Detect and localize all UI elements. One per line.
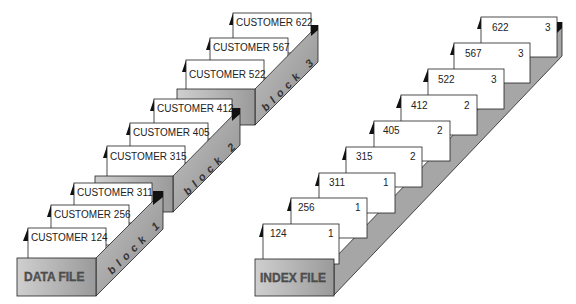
index-file-label: INDEX FILE — [260, 271, 326, 285]
index-block-number: 2 — [464, 100, 470, 111]
record-label: CUSTOMER 256 — [54, 209, 131, 220]
index-key: 622 — [492, 22, 509, 33]
index-key: 567 — [465, 48, 482, 59]
index-block-number: 1 — [355, 202, 361, 213]
index-block-number: 1 — [328, 228, 334, 239]
record-label: CUSTOMER 124 — [31, 232, 108, 243]
record-label: CUSTOMER 567 — [213, 42, 290, 53]
index-block-number: 3 — [545, 22, 551, 33]
record-label: CUSTOMER 412 — [157, 103, 234, 114]
index-key: 256 — [298, 202, 315, 213]
index-block-number: 2 — [410, 151, 416, 162]
record-label: CUSTOMER 311 — [77, 187, 153, 198]
index-key: 412 — [411, 100, 428, 111]
index-key: 124 — [270, 228, 287, 239]
record-label: CUSTOMER 405 — [133, 127, 210, 138]
index-key: 311 — [329, 177, 345, 188]
index-block-number: 3 — [518, 48, 524, 59]
index-block-number: 1 — [383, 177, 389, 188]
index-key: 405 — [383, 125, 400, 136]
index-key: 522 — [438, 74, 455, 85]
index-entry: 124 1 — [259, 224, 339, 264]
record-label: CUSTOMER 622 — [236, 17, 313, 28]
index-block-number: 2 — [437, 125, 443, 136]
record-label: CUSTOMER 315 — [110, 151, 187, 162]
data-block-1: CUSTOMER 311 CUSTOMER 256 CUSTOMER 124 D… — [17, 183, 165, 296]
record-label: CUSTOMER 522 — [189, 69, 266, 80]
index-key: 315 — [356, 151, 373, 162]
data-file-label: DATA FILE — [24, 270, 84, 284]
file-index-diagram: CUSTOMER 622 CUSTOMER 567 CUSTOMER 522 b… — [0, 0, 576, 304]
index-block-number: 3 — [491, 74, 497, 85]
